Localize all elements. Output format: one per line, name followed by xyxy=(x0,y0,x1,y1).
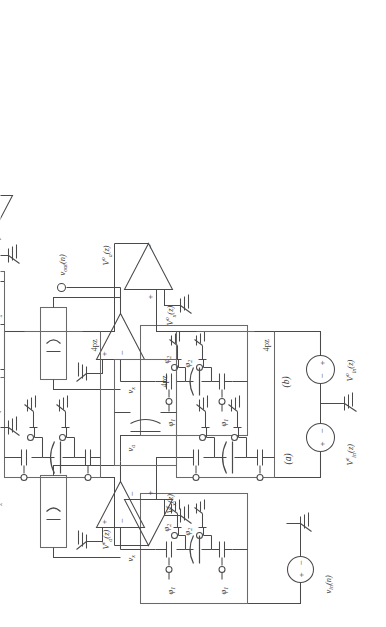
phase2-label-phi1-lower: φ1 xyxy=(217,418,229,426)
opamp1-minus: − xyxy=(116,518,126,523)
b-sw-left-lower xyxy=(246,449,274,480)
b-out-gnd-l xyxy=(8,416,19,435)
feedback-cap-2 xyxy=(40,297,120,389)
switch2-phi2-upper: φ2 xyxy=(160,331,185,381)
sc-block-1: φ1 xyxy=(140,493,247,603)
schematic-canvas: + − vin(n) xyxy=(0,0,386,627)
node-label-vx-1: vx xyxy=(124,554,136,561)
vin-even-minus: − xyxy=(316,428,326,433)
b-cap-lower xyxy=(214,441,246,473)
schematic-svg: + − vin(n) xyxy=(0,0,386,627)
b-gnd-opamp-l xyxy=(180,504,191,523)
b2-sw-shunt-upper xyxy=(24,395,42,457)
source-vin: + − xyxy=(247,512,313,603)
b-out-gnd-r xyxy=(8,244,19,263)
phase-label-phi1-lower: φ1 xyxy=(217,586,229,594)
switch-phi1-upper: φ1 xyxy=(155,541,185,594)
b2-ground-upper xyxy=(24,395,35,411)
ground-opamp1 xyxy=(76,530,86,549)
ground2-phi2-upper xyxy=(169,331,179,345)
cap-label-b-upper: 4pz xyxy=(88,339,98,352)
vin-even-plus: + xyxy=(316,441,326,446)
ground-phi2-lower xyxy=(194,499,204,513)
source-label-vin-even: Vein(z) xyxy=(344,443,357,465)
b-ground-upper xyxy=(196,395,207,411)
b2-ground-lower xyxy=(56,395,67,411)
ground-opamp2 xyxy=(76,362,86,381)
switch-phi1-lower: φ1 xyxy=(211,541,232,594)
node-label-vx-odd-b1: Vox(z) xyxy=(164,305,177,325)
node-label-vx-even-b2: Vex(z) xyxy=(0,493,3,513)
capacitor-sc1 xyxy=(185,535,211,563)
b-gnd-opamp-r xyxy=(180,294,191,313)
b2-sw-shunt-lower xyxy=(56,395,74,457)
opamp1-plus: + xyxy=(98,519,108,524)
source-minus-sign: − xyxy=(296,560,306,565)
phase2-label-phi1-upper: φ1 xyxy=(164,418,176,426)
b-ground-lower xyxy=(228,395,239,411)
sc-block-b-lower: 4pz xyxy=(176,331,274,480)
b-opamp-r-plus: + xyxy=(144,294,154,299)
feedback-cap-1 xyxy=(40,465,120,557)
capacitor-sc2 xyxy=(185,367,211,395)
node-label-va-even: Vea(z) xyxy=(100,529,113,549)
b-sw-left-upper xyxy=(176,449,214,480)
sc-block-2: φ1 xyxy=(120,325,247,461)
node-label-va: va xyxy=(124,444,136,451)
switch2-phi1-lower: φ1 xyxy=(211,373,232,426)
opamp2-minus: − xyxy=(116,350,126,355)
node-label-va-odd: Voa(z) xyxy=(100,245,113,265)
panel-b-output-stage xyxy=(0,195,12,241)
phase2-label-phi2-lower: φ2 xyxy=(181,359,193,367)
b2-sw-left-lower xyxy=(74,449,100,480)
output-node-a xyxy=(57,283,120,291)
source-plus-sign: + xyxy=(296,572,306,577)
phase-label-phi2-upper: φ2 xyxy=(160,523,172,531)
caption-a: (a) xyxy=(282,453,293,464)
cap-label-b-shared-lower: 4pz xyxy=(158,375,168,388)
output-label-vout-a: vout(n) xyxy=(56,253,68,275)
vin-odd-minus: − xyxy=(316,373,326,378)
b-opamp-l-minus: − xyxy=(126,491,136,496)
vin-odd-plus: + xyxy=(316,360,326,365)
ground2-phi2-lower xyxy=(194,331,204,345)
ground-source xyxy=(286,512,311,531)
phase-label-phi2-lower: φ2 xyxy=(181,527,193,535)
cap-label-b-lower: 4pz xyxy=(260,339,270,352)
panel-a: + − vin(n) xyxy=(40,253,334,603)
b-sw-shunt-lower xyxy=(228,395,246,457)
caption-b: (b) xyxy=(280,376,291,387)
source-label-vin: vin(n) xyxy=(322,574,334,593)
phase-label-phi1-upper: φ1 xyxy=(164,586,176,594)
panel-b: + − − + xyxy=(0,243,357,549)
source-label-vin-odd: Voin(z) xyxy=(344,359,357,381)
figure-root: + − vin(n) xyxy=(0,0,386,627)
b2-cap xyxy=(42,441,74,473)
node-label-vx-odd-b2: Vox(z) xyxy=(0,305,3,325)
node-label-vx-2: vx xyxy=(124,386,136,393)
opamp2-plus: + xyxy=(98,351,108,356)
b-opamp-r-minus: − xyxy=(144,244,154,249)
ground-sources-b xyxy=(344,392,356,411)
b-opamp-l-plus: + xyxy=(144,490,154,495)
b2-sw-left-upper xyxy=(4,449,42,480)
opamp-2: − + xyxy=(76,287,144,381)
b-sw-shunt-upper xyxy=(196,395,214,457)
